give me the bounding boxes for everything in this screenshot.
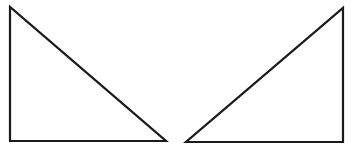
diagram-canvas xyxy=(0,0,355,150)
triangles-figure xyxy=(0,0,355,150)
left-right-triangle xyxy=(10,7,166,141)
right-right-triangle xyxy=(186,8,343,142)
